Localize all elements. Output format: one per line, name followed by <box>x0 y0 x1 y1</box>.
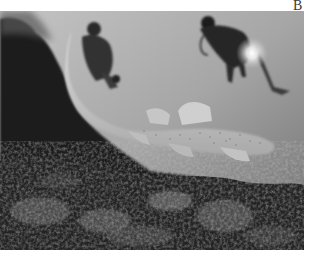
underwater-photo <box>0 11 304 250</box>
dive-light-glow <box>236 37 268 69</box>
reef-foreground <box>0 151 304 250</box>
